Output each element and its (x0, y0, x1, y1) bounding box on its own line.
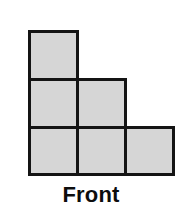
cube-cell-col2-row2 (124, 126, 175, 176)
cube-cell-col0-row1 (28, 78, 79, 129)
cube-cell-col0-row0 (28, 30, 79, 81)
cube-cell-col1-row2 (76, 126, 127, 176)
figure-caption-front: Front (0, 182, 182, 208)
cube-stack-grid (28, 30, 172, 176)
front-view-figure: Front (0, 0, 182, 214)
cube-cell-col1-row1 (76, 78, 127, 129)
cube-cell-col0-row2 (28, 126, 79, 176)
